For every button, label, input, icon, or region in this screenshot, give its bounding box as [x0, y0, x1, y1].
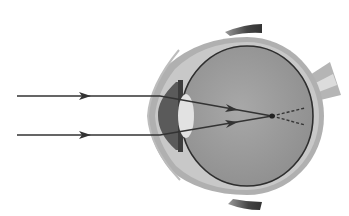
lower-eyelid: [228, 199, 262, 210]
vitreous-body: [181, 46, 313, 186]
upper-eyelid: [225, 24, 262, 36]
myopia-eye-diagram: [0, 0, 349, 216]
focal-point: [269, 113, 274, 118]
